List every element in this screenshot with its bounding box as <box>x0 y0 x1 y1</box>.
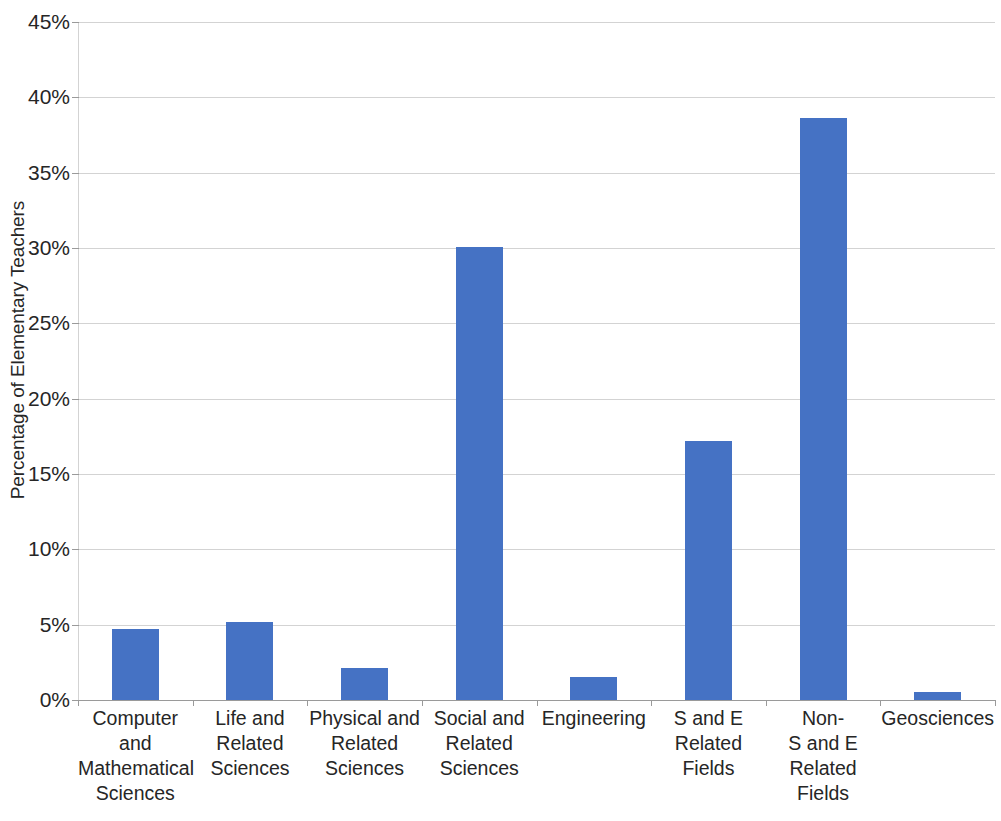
y-axis-tick <box>72 248 79 249</box>
x-axis-tick <box>422 700 423 706</box>
y-tick-label: 30% <box>28 236 70 260</box>
x-axis-tick <box>193 700 194 706</box>
x-axis-category-labels: Computer andMathematicalSciencesLife and… <box>78 706 995 821</box>
y-axis-tick <box>72 22 79 23</box>
y-axis-tick <box>72 323 79 324</box>
x-axis-label: Social andRelatedSciences <box>422 706 537 781</box>
bar <box>914 692 961 700</box>
y-tick-label: 5% <box>40 613 70 637</box>
x-axis-label-line: Fields <box>766 781 881 806</box>
bar <box>800 118 847 700</box>
x-axis-label-line: Related <box>193 731 308 756</box>
x-axis-label-line: Related <box>651 731 766 756</box>
x-axis-label: Computer andMathematicalSciences <box>78 706 193 806</box>
x-axis-label-line: S and E <box>651 706 766 731</box>
x-axis-label-line: Related <box>766 756 881 781</box>
y-tick-label: 25% <box>28 311 70 335</box>
x-axis-label-line: Sciences <box>193 756 308 781</box>
y-axis-tick <box>72 549 79 550</box>
x-axis-label-line: Physical and <box>307 706 422 731</box>
x-axis-tick <box>880 700 881 706</box>
gridline-20 <box>78 399 995 400</box>
x-axis-label-line: Geosciences <box>880 706 995 731</box>
y-axis-tick <box>72 97 79 98</box>
y-axis-tick-labels: 0%5%10%15%20%25%30%35%40%45% <box>36 0 78 722</box>
x-axis-tick <box>995 700 996 706</box>
x-axis-label-line: Sciences <box>78 781 193 806</box>
bar <box>570 677 617 700</box>
gridline-45 <box>78 22 995 23</box>
y-axis-tick <box>72 173 79 174</box>
plot-area <box>78 22 995 700</box>
x-axis-tick <box>78 700 79 706</box>
x-axis-label: Non-S and ERelatedFields <box>766 706 881 806</box>
x-axis-label-line: Sciences <box>307 756 422 781</box>
x-axis-label: Geosciences <box>880 706 995 731</box>
y-tick-label: 40% <box>28 85 70 109</box>
y-tick-label: 0% <box>40 688 70 712</box>
bar <box>685 441 732 700</box>
x-axis-label: S and ERelatedFields <box>651 706 766 781</box>
x-axis-label-line: Life and <box>193 706 308 731</box>
gridline-25 <box>78 323 995 324</box>
bar <box>226 622 273 700</box>
bar-chart: Percentage of Elementary Teachers 0%5%10… <box>0 0 1001 821</box>
y-tick-label: 45% <box>28 10 70 34</box>
y-axis-tick <box>72 399 79 400</box>
x-axis-label-line: S and E <box>766 731 881 756</box>
x-axis-tick <box>766 700 767 706</box>
gridline-35 <box>78 173 995 174</box>
x-axis-label: Life andRelatedSciences <box>193 706 308 781</box>
x-axis-label-line: Related <box>422 731 537 756</box>
bar <box>341 668 388 700</box>
gridline-5 <box>78 625 995 626</box>
x-axis-label: Engineering <box>537 706 652 731</box>
x-axis-tick <box>651 700 652 706</box>
y-tick-label: 35% <box>28 161 70 185</box>
x-axis-label-line: Mathematical <box>78 756 193 781</box>
x-axis-label-line: Fields <box>651 756 766 781</box>
y-axis-tick <box>72 625 79 626</box>
y-tick-label: 20% <box>28 387 70 411</box>
y-axis-tick <box>72 474 79 475</box>
x-axis-label-line: Related <box>307 731 422 756</box>
y-axis-line <box>78 22 79 701</box>
x-axis-tick <box>537 700 538 706</box>
y-axis-title-text: Percentage of Elementary Teachers <box>7 201 29 499</box>
x-axis-label: Physical andRelatedSciences <box>307 706 422 781</box>
bar <box>112 629 159 700</box>
y-tick-label: 10% <box>28 537 70 561</box>
x-axis-tick <box>307 700 308 706</box>
x-axis-label-line: Sciences <box>422 756 537 781</box>
x-axis-label-line: Engineering <box>537 706 652 731</box>
gridline-30 <box>78 248 995 249</box>
x-axis-label-line: Non- <box>766 706 881 731</box>
gridline-15 <box>78 474 995 475</box>
x-axis-label-line: Social and <box>422 706 537 731</box>
y-tick-label: 15% <box>28 462 70 486</box>
bar <box>456 247 503 701</box>
gridline-10 <box>78 549 995 550</box>
gridline-40 <box>78 97 995 98</box>
x-axis-label-line: Computer and <box>78 706 193 756</box>
